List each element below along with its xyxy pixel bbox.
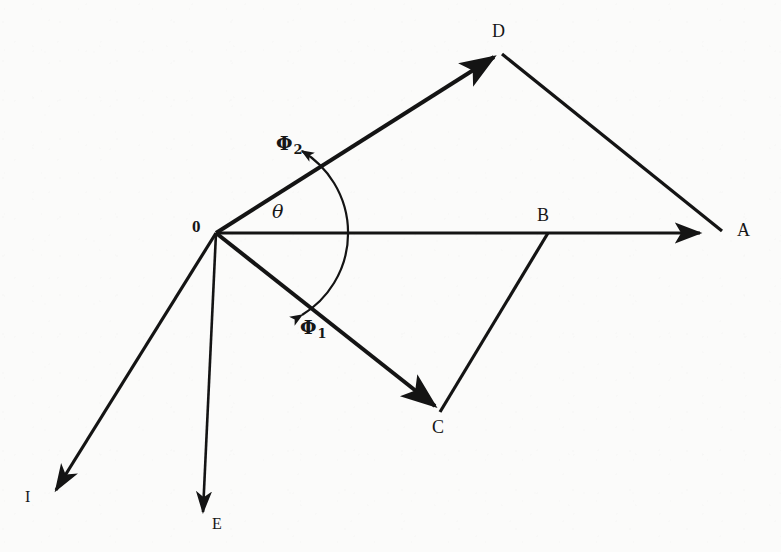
- c-to-b-segment-line: [440, 233, 548, 412]
- phi2-vector-line: [216, 57, 494, 233]
- vertical-vector-line: [203, 233, 216, 512]
- vector-diagram-figure: y 0: [0, 0, 781, 552]
- current-vector-line: [56, 233, 216, 490]
- point-label-a: A: [737, 221, 750, 239]
- point-label-origin: 0: [192, 218, 201, 235]
- theta-angle-label: θ: [272, 202, 283, 221]
- vector-diagram-canvas: [0, 0, 781, 552]
- point-label-i: I: [25, 489, 30, 505]
- point-label-c: C: [432, 418, 444, 436]
- phi2-vector-label: Φ2: [276, 134, 302, 153]
- phi1-vector-label: Φ1: [300, 318, 326, 337]
- phi2-symbol: Φ: [276, 132, 293, 154]
- point-label-d: D: [492, 22, 505, 40]
- point-label-e: E: [212, 516, 222, 532]
- phi1-symbol: Φ: [300, 316, 317, 338]
- d-to-a-segment-line: [502, 54, 722, 231]
- phi2-subscript: 2: [294, 142, 303, 157]
- phi1-subscript: 1: [318, 326, 327, 341]
- point-label-b: B: [537, 206, 549, 224]
